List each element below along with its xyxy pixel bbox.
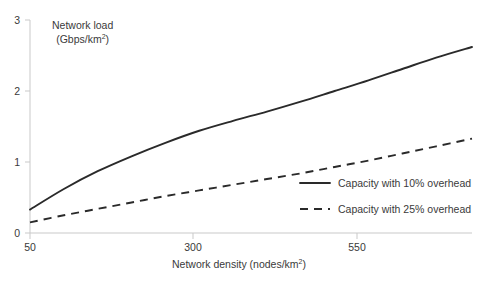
legend-label-capacity-25pct: Capacity with 25% overhead [338,204,471,215]
legend-label-capacity-10pct: Capacity with 10% overhead [338,178,471,189]
y-tick-label-1: 1 [6,157,20,168]
y-axis-ticks [25,20,30,233]
y-tick-label-0: 0 [6,228,20,239]
x-tick-label-300: 300 [178,242,208,253]
x-tick-label-50: 50 [18,242,42,253]
x-axis-title-prefix: Network density (nodes/km [172,258,299,270]
x-axis-ticks [30,233,357,239]
y-axis-title-line2: (Gbps/km2) [52,32,113,46]
x-axis-title: Network density (nodes/km2) [0,257,478,271]
y-axis-title-unit-prefix: (Gbps/km [56,33,102,45]
line-chart: 3 2 1 0 50 300 550 Network load (Gbps/km… [0,0,478,282]
y-axis-title-line1: Network load [52,18,113,32]
x-tick-label-550: 550 [342,242,372,253]
y-axis-title-unit-suffix: ) [106,33,110,45]
y-axis-title: Network load (Gbps/km2) [52,18,113,46]
y-tick-label-2: 2 [6,86,20,97]
x-axis-title-suffix: ) [303,258,307,270]
y-tick-label-3: 3 [6,15,20,26]
